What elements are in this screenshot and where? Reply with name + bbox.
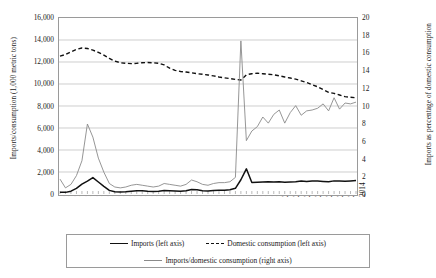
legend-label-ratio: Imports/domestic consumption (right axis… bbox=[165, 256, 291, 265]
y-tick-right: 8 bbox=[362, 119, 388, 128]
y-tick-left: 8,000 bbox=[14, 102, 54, 111]
y-tick-right: 18 bbox=[362, 31, 388, 40]
legend-label-domestic: Domestic consumption (left axis) bbox=[227, 239, 326, 248]
y-tick-right: 10 bbox=[362, 102, 388, 111]
y-tick-left: 12,000 bbox=[14, 57, 54, 66]
chart-figure: Imports/consumption (1,000 metric tons) … bbox=[0, 0, 436, 278]
y-tick-left: 6,000 bbox=[14, 124, 54, 133]
legend-item-ratio: Imports/domestic consumption (right axis… bbox=[144, 256, 291, 265]
series-line bbox=[60, 41, 356, 188]
legend-swatch-imports bbox=[110, 240, 128, 247]
y-tick-left: 0 bbox=[14, 190, 54, 199]
series-line bbox=[60, 48, 356, 98]
y-tick-right: 20 bbox=[362, 13, 388, 22]
y-tick-right: 4 bbox=[362, 155, 388, 164]
legend-item-domestic: Domestic consumption (left axis) bbox=[206, 239, 326, 248]
y-tick-right: 6 bbox=[362, 137, 388, 146]
legend-item-imports: Imports (left axis) bbox=[110, 239, 184, 248]
y-axis-right-title: Imports as percentage of domestic consum… bbox=[425, 9, 433, 179]
chart-canvas bbox=[59, 18, 357, 195]
y-tick-right: 16 bbox=[362, 48, 388, 57]
legend-swatch-domestic bbox=[206, 240, 224, 247]
plot-area bbox=[58, 17, 358, 196]
legend-label-imports: Imports (left axis) bbox=[131, 239, 184, 248]
y-tick-left: 4,000 bbox=[14, 146, 54, 155]
y-tick-left: 14,000 bbox=[14, 35, 54, 44]
x-tick: 2014 bbox=[358, 182, 367, 197]
y-tick-left: 10,000 bbox=[14, 79, 54, 88]
y-tick-right: 12 bbox=[362, 84, 388, 93]
y-tick-right: 2 bbox=[362, 172, 388, 181]
legend-swatch-ratio bbox=[144, 257, 162, 264]
y-tick-left: 16,000 bbox=[14, 13, 54, 22]
y-tick-left: 2,000 bbox=[14, 168, 54, 177]
y-tick-right: 14 bbox=[362, 66, 388, 75]
chart-legend: Imports (left axis) Domestic consumption… bbox=[66, 234, 370, 268]
